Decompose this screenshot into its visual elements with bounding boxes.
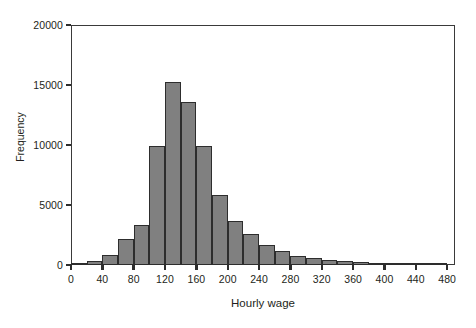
histogram-bar xyxy=(400,263,416,265)
y-axis-tick-label: 0 xyxy=(0,260,63,271)
y-axis-tick-label: 20000 xyxy=(0,20,63,31)
x-axis-tick-mark xyxy=(415,265,417,270)
histogram-bar xyxy=(259,245,275,265)
x-axis-tick-mark xyxy=(289,265,291,270)
histogram-bar xyxy=(71,263,87,265)
y-axis-tick-label: 10000 xyxy=(0,140,63,151)
y-axis-tick-label: 15000 xyxy=(0,80,63,91)
y-axis-tick-label: 5000 xyxy=(0,200,63,211)
x-axis-title: Hourly wage xyxy=(71,297,455,309)
histogram-bar xyxy=(196,146,212,265)
x-axis-tick-mark xyxy=(321,265,323,270)
x-axis-tick-mark xyxy=(352,265,354,270)
histogram-bar xyxy=(290,256,306,265)
x-axis-tick-mark xyxy=(258,265,260,270)
histogram-bar xyxy=(87,261,103,265)
histogram-chart: 05000100001500020000 Frequency 040801201… xyxy=(0,0,476,328)
histogram-bar xyxy=(149,146,165,265)
x-axis-tick-mark xyxy=(164,265,166,270)
histogram-bar xyxy=(118,239,134,265)
x-axis-tick-mark xyxy=(70,265,72,270)
histogram-bar xyxy=(353,262,369,265)
histogram-bar xyxy=(337,261,353,265)
histogram-bar xyxy=(322,260,338,265)
histogram-bar xyxy=(275,251,291,265)
y-axis-tick-mark xyxy=(66,84,71,86)
y-axis-tick-mark xyxy=(66,24,71,26)
histogram-bar xyxy=(102,255,118,265)
histogram-bar xyxy=(431,263,447,265)
x-axis-tick-mark xyxy=(227,265,229,270)
histogram-bar xyxy=(181,102,197,265)
histogram-bar xyxy=(212,195,228,265)
histogram-bar xyxy=(134,225,150,265)
histogram-bar xyxy=(228,221,244,265)
x-axis-tick-mark xyxy=(383,265,385,270)
histogram-bar xyxy=(369,263,385,265)
y-axis-title: Frequency xyxy=(14,67,26,207)
y-axis-tick-mark xyxy=(66,204,71,206)
y-axis-tick-mark xyxy=(66,144,71,146)
histogram-bar xyxy=(165,82,181,265)
histogram-bar xyxy=(306,258,322,265)
plot-area xyxy=(71,25,455,265)
x-axis-tick-mark xyxy=(446,265,448,270)
histogram-bar xyxy=(384,263,400,265)
x-axis-tick-mark xyxy=(195,265,197,270)
histogram-bar xyxy=(416,263,432,265)
histogram-bar xyxy=(243,234,259,265)
x-axis-tick-label: 480 xyxy=(427,274,467,285)
x-axis-tick-mark xyxy=(132,265,134,270)
x-axis-tick-mark xyxy=(101,265,103,270)
